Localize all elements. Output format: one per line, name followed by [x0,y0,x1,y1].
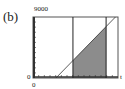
shaded-area [73,27,106,78]
graph-window [0,0,125,89]
plot-area [33,17,118,78]
